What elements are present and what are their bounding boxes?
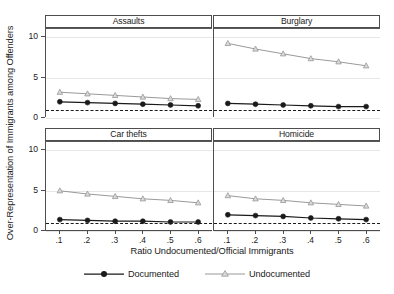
chart-panel: Homicide xyxy=(213,128,380,230)
x-axis-tick xyxy=(198,231,199,234)
gridline xyxy=(214,231,380,232)
data-point-documented xyxy=(57,217,62,222)
gridline xyxy=(214,118,380,119)
gridline xyxy=(46,118,212,119)
chart-legend: DocumentedUndocumented xyxy=(0,268,394,280)
x-axis-tick xyxy=(142,231,143,234)
x-axis-tick-label: .4 xyxy=(134,236,150,244)
series-line-documented xyxy=(60,220,198,222)
panel-title: Homicide xyxy=(213,128,380,141)
series-line-undocumented xyxy=(60,92,198,99)
data-point-documented xyxy=(140,102,145,107)
y-axis-tick-label: 10 xyxy=(20,32,38,41)
data-point-documented xyxy=(113,219,118,224)
legend-entry[interactable]: Undocumented xyxy=(205,268,310,280)
x-axis-tick xyxy=(366,231,367,234)
data-point-documented xyxy=(168,103,173,108)
data-point-documented xyxy=(113,101,118,106)
y-axis-tick-label: 0 xyxy=(20,226,38,235)
data-point-undocumented xyxy=(225,193,230,198)
triangle-marker-icon xyxy=(205,268,245,280)
panel-title: Car thefts xyxy=(45,128,212,141)
plot-area xyxy=(213,28,380,117)
x-axis-tick-label: .2 xyxy=(247,236,263,244)
data-point-documented xyxy=(140,219,145,224)
chart-panel: Assaults xyxy=(45,15,212,117)
x-axis-tick xyxy=(310,231,311,234)
data-point-documented xyxy=(253,213,258,218)
data-point-documented xyxy=(336,216,341,221)
series-layer xyxy=(214,29,380,117)
data-point-documented xyxy=(85,218,90,223)
plot-area xyxy=(45,28,212,117)
plot-area xyxy=(45,141,212,230)
data-point-documented xyxy=(196,220,201,225)
x-axis-tick xyxy=(338,231,339,234)
data-point-undocumented xyxy=(57,188,62,193)
series-layer xyxy=(46,142,212,230)
x-axis-tick-label: .1 xyxy=(219,236,235,244)
series-layer xyxy=(46,29,212,117)
x-axis-title: Ratio Undocumented/Official Immigrants xyxy=(40,246,384,256)
x-axis-tick xyxy=(115,231,116,234)
series-line-documented xyxy=(60,102,198,106)
y-axis-tick xyxy=(41,190,45,191)
x-axis-tick-label: .1 xyxy=(51,236,67,244)
data-point-documented xyxy=(225,101,230,106)
chart-panel: Burglary xyxy=(213,15,380,117)
y-axis-tick xyxy=(41,117,45,118)
data-point-documented xyxy=(336,104,341,109)
y-axis-tick xyxy=(41,36,45,37)
x-axis-tick-label: .3 xyxy=(275,236,291,244)
y-axis-tick-label: 0 xyxy=(20,113,38,122)
series-line-undocumented xyxy=(60,191,198,203)
y-axis-tick xyxy=(41,77,45,78)
y-axis-tick xyxy=(41,149,45,150)
panel-title: Burglary xyxy=(213,15,380,28)
data-point-documented xyxy=(57,99,62,104)
series-layer xyxy=(214,142,380,230)
x-axis-tick xyxy=(87,231,88,234)
data-point-documented xyxy=(308,103,313,108)
x-axis-tick-label: .5 xyxy=(330,236,346,244)
series-line-documented xyxy=(228,103,366,106)
x-axis-tick xyxy=(283,231,284,234)
data-point-documented xyxy=(364,104,369,109)
series-line-undocumented xyxy=(228,196,366,206)
legend-label: Documented xyxy=(128,269,179,279)
y-axis-tick-label: 5 xyxy=(20,73,38,82)
chart-figure: Over-Representation of Immigrants among … xyxy=(0,0,394,294)
data-point-documented xyxy=(196,103,201,108)
gridline xyxy=(46,231,212,232)
x-axis-tick xyxy=(170,231,171,234)
plot-area xyxy=(213,141,380,230)
data-point-undocumented xyxy=(225,40,230,45)
panel-title: Assaults xyxy=(45,15,212,28)
circle-marker-icon xyxy=(84,268,124,280)
data-point-documented xyxy=(281,103,286,108)
data-point-undocumented xyxy=(57,89,62,94)
chart-panel: Car thefts xyxy=(45,128,212,230)
series-line-documented xyxy=(228,215,366,220)
data-point-documented xyxy=(85,100,90,105)
x-axis-tick-label: .6 xyxy=(190,236,206,244)
x-axis-line xyxy=(45,230,212,231)
data-point-documented xyxy=(281,214,286,219)
x-axis-tick-label: .3 xyxy=(107,236,123,244)
data-point-documented xyxy=(168,220,173,225)
x-axis-tick xyxy=(59,231,60,234)
series-line-undocumented xyxy=(228,43,366,65)
x-axis-tick xyxy=(227,231,228,234)
data-point-documented xyxy=(364,217,369,222)
x-axis-tick xyxy=(255,231,256,234)
x-axis-tick-label: .6 xyxy=(358,236,374,244)
x-axis-tick-label: .4 xyxy=(302,236,318,244)
legend-label: Undocumented xyxy=(249,269,310,279)
x-axis-tick-label: .2 xyxy=(79,236,95,244)
x-axis-line xyxy=(213,230,380,231)
x-axis-tick-label: .5 xyxy=(162,236,178,244)
y-axis-tick-label: 10 xyxy=(20,145,38,154)
y-axis-title: Over-Representation of Immigrants among … xyxy=(2,8,18,258)
legend-entry[interactable]: Documented xyxy=(84,268,179,280)
data-point-documented xyxy=(253,102,258,107)
